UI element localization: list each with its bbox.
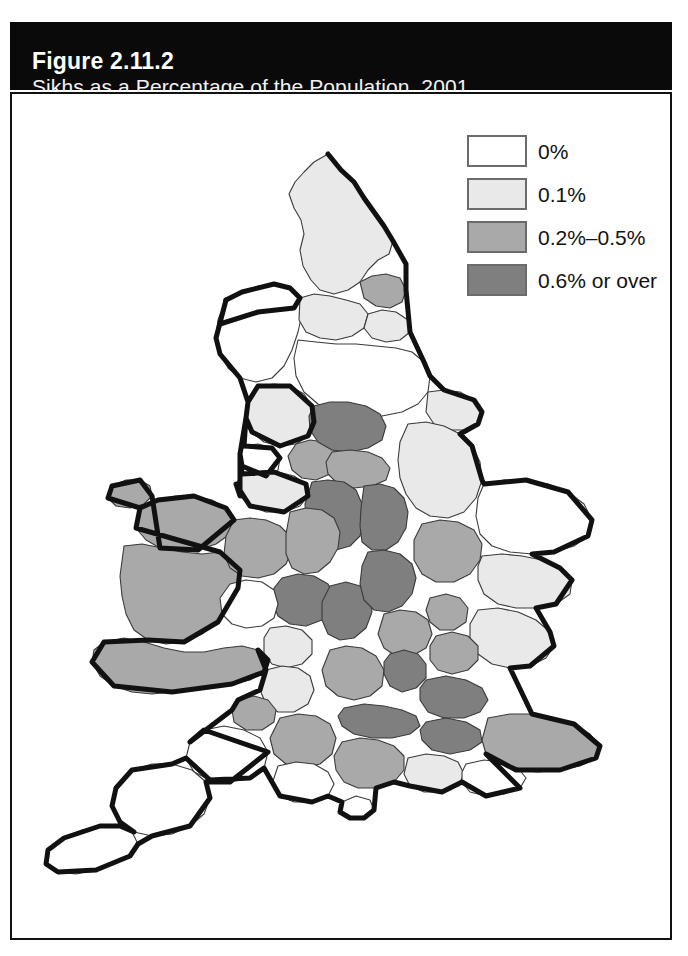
legend-label-3: 0.6% or over [538, 270, 657, 291]
legend-item-0: 0% [467, 132, 667, 170]
legend-item-3: 0.6% or over [467, 261, 667, 299]
legend-item-1: 0.1% [467, 175, 667, 213]
legend-swatch-1 [467, 178, 527, 210]
legend-label-1: 0.1% [538, 184, 586, 205]
map-area-cornwall [46, 826, 138, 874]
map-area-buckinghamshire [384, 650, 426, 692]
map-area-hertfordshire [430, 632, 478, 674]
map-area-leicestershire [360, 550, 416, 612]
map-area-wiltshire [270, 714, 336, 768]
map-area-tees-valley [364, 310, 410, 342]
figure-header-bar: Figure 2.11.2 Sikhs as a Percentage of t… [10, 22, 672, 90]
legend-label-2: 0.2%–0.5% [538, 227, 645, 248]
map-area-staffordshire [286, 508, 340, 574]
map-area-lincolnshire [398, 422, 482, 518]
legend-swatch-3 [467, 264, 527, 296]
map-area-berkshire [338, 704, 420, 738]
map-area-greater-london [420, 676, 488, 718]
map-area-shropshire [224, 518, 292, 578]
map-area-northumberland [289, 154, 393, 294]
map-area-bedfordshire [426, 594, 468, 630]
map-area-worcestershire [264, 626, 312, 668]
map-legend: 0% 0.1% 0.2%–0.5% 0.6% or over [467, 132, 667, 304]
map-area-surrey [420, 718, 482, 754]
map-area-tyne-and-wear [360, 274, 406, 308]
map-frame: 0% 0.1% 0.2%–0.5% 0.6% or over [10, 92, 672, 940]
map-area-northamptonshire [378, 610, 432, 656]
figure-container: Figure 2.11.2 Sikhs as a Percentage of t… [0, 0, 688, 956]
map-area-durham [299, 294, 368, 340]
legend-label-0: 0% [538, 141, 568, 162]
map-area-mid-wales [120, 544, 240, 644]
map-area-nottinghamshire [360, 484, 408, 550]
map-area-cambridgeshire [414, 520, 482, 582]
map-area-oxfordshire [322, 646, 384, 700]
figure-number: Figure 2.11.2 [32, 48, 174, 74]
legend-swatch-0 [467, 135, 527, 167]
legend-item-2: 0.2%–0.5% [467, 218, 667, 256]
legend-swatch-2 [467, 221, 527, 253]
